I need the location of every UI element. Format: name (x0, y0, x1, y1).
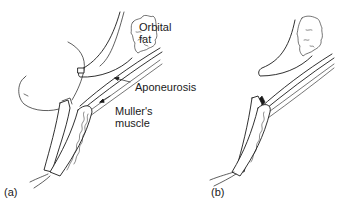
label-muller-line2: muscle (115, 117, 150, 129)
suture-ends-b (210, 172, 234, 180)
orbital-septum-a (79, 12, 133, 77)
orbital-fat-outline-b (297, 16, 322, 56)
eyelid-surgery-diagram: Orbital fat Aponeurosis Muller's muscle … (0, 0, 349, 206)
label-orbital-fat-line1: Orbital (139, 21, 171, 33)
panel-label-a: (a) (4, 186, 17, 198)
panel-b-drawing (210, 16, 334, 186)
label-orbital-fat-line2: fat (139, 33, 151, 45)
label-muller-line1: Muller's (115, 105, 153, 117)
panel-label-b: (b) (211, 186, 224, 198)
suture-ends-a (30, 174, 48, 182)
aponeurosis-lines-b (260, 54, 332, 108)
suture-tab (78, 68, 84, 73)
orbital-septum-b (259, 20, 312, 76)
label-aponeurosis: Aponeurosis (135, 81, 196, 93)
line-art (0, 0, 349, 206)
